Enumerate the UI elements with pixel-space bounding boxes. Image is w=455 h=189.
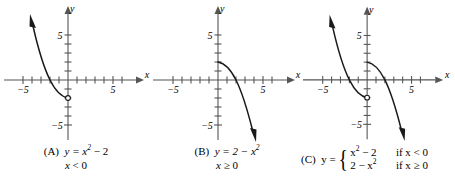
x-axis-a xyxy=(4,76,136,84)
y-axis-name-c: y xyxy=(368,4,374,15)
y-axis-a xyxy=(64,14,72,140)
x-axis-name-c: x xyxy=(444,69,450,80)
pw-row2-var: x xyxy=(405,159,411,171)
caption-a-tag: (A) xyxy=(44,145,59,157)
open-circle-a xyxy=(66,96,71,101)
y-tick-label-neg5-a: −5 xyxy=(51,120,63,131)
caption-b-cond-rest: ≥ 0 xyxy=(224,159,238,171)
pw-row2-if: if xyxy=(396,159,403,171)
caption-a-exp: 2 xyxy=(87,143,91,152)
curve-arrow-b xyxy=(250,128,257,142)
caption-b-tag: (B) xyxy=(194,145,209,157)
curve-arrow-c-right xyxy=(399,127,405,141)
piecewise-brace-icon: { xyxy=(338,147,347,171)
caption-b-base: 2 − x xyxy=(232,145,255,157)
caption-a-lead: y = xyxy=(65,145,80,157)
piecewise-row-1: x2 − 2 if x < 0 xyxy=(350,146,428,158)
x-tick-label-neg5-c: −5 xyxy=(317,84,329,95)
figure-root: −5 5 5 −5 x y (A) y = x2 − 2 x < 0 xyxy=(0,0,455,189)
y-tick-label-neg5-c: −5 xyxy=(350,119,362,130)
caption-a-cond-rest: < 0 xyxy=(73,159,87,171)
caption-a-cond-var: x xyxy=(65,159,70,171)
curve-b xyxy=(218,62,253,132)
y-axis-c xyxy=(363,15,371,139)
panel-a: −5 5 5 −5 x y (A) y = x2 − 2 x < 0 xyxy=(0,0,152,189)
open-circle-c xyxy=(365,95,370,100)
x-axis-name-b: x xyxy=(295,69,301,80)
caption-b: (B) y = 2 − x2 x ≥ 0 xyxy=(151,144,303,172)
x-tick-label-pos5-b: 5 xyxy=(261,84,266,95)
caption-c-tag: (C) xyxy=(301,153,316,165)
x-axis-arrow-a xyxy=(136,77,144,84)
y-tick-label-pos5-a: 5 xyxy=(58,30,63,41)
pw-row1-rest: < 0 xyxy=(414,146,428,158)
curve-c-left xyxy=(333,27,368,98)
caption-b-lead: y = xyxy=(215,145,230,157)
caption-b-cond-var: x xyxy=(216,159,221,171)
caption-c: (C) y = { x2 − 2 if x < 0 2 − x2 if x ≥ … xyxy=(301,146,455,172)
x-axis-arrow-b xyxy=(287,77,295,84)
x-axis-b xyxy=(153,76,287,84)
x-tick-label-neg5-a: −5 xyxy=(17,84,29,95)
curve-arrow-a xyxy=(30,14,37,28)
panel-b: −5 5 5 −5 x y (B) y = 2 − x2 x ≥ 0 xyxy=(151,0,303,189)
y-axis-b xyxy=(214,14,222,140)
graph-b: −5 5 5 −5 x y xyxy=(151,0,303,146)
panel-c: −5 5 5 −5 x y (C) y = { x2 − 2 if x < 0 xyxy=(301,0,453,189)
caption-c-lead: y = xyxy=(321,153,335,165)
curve-a xyxy=(33,26,68,98)
x-tick-label-pos5-a: 5 xyxy=(111,84,116,95)
y-tick-label-neg5-b: −5 xyxy=(201,120,213,131)
pw-row1-var: x xyxy=(405,146,411,158)
caption-b-exp: 2 xyxy=(256,143,260,152)
piecewise-row-2: 2 − x2 if x ≥ 0 xyxy=(350,159,428,171)
pw-row2-exp: 2 xyxy=(373,157,377,166)
pw-row1-tail: − 2 xyxy=(362,146,376,158)
y-tick-label-pos5-b: 5 xyxy=(208,30,213,41)
curve-arrow-c-left xyxy=(329,15,335,29)
x-tick-label-neg5-b: −5 xyxy=(167,84,179,95)
graph-a: −5 5 5 −5 x y xyxy=(0,0,152,146)
caption-a-tail: − 2 xyxy=(94,145,108,157)
y-tick-label-pos5-c: 5 xyxy=(357,30,362,41)
graph-c: −5 5 5 −5 x y xyxy=(301,0,453,146)
x-axis-c xyxy=(303,76,435,84)
pw-row2-base: 2 − x xyxy=(350,159,373,171)
x-tick-label-pos5-c: 5 xyxy=(409,84,414,95)
caption-a: (A) y = x2 − 2 x < 0 xyxy=(0,144,152,172)
pw-row1-if: if xyxy=(396,146,403,158)
y-axis-name-a: y xyxy=(69,3,75,14)
x-axis-arrow-c xyxy=(435,76,443,83)
pw-row2-rest: ≥ 0 xyxy=(414,159,428,171)
curve-c-right xyxy=(367,62,402,131)
x-axis-name-a: x xyxy=(144,69,150,80)
y-axis-name-b: y xyxy=(219,3,225,14)
pw-row1-exp: 2 xyxy=(356,144,360,153)
